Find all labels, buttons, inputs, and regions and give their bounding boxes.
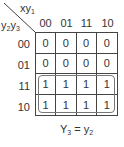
kmap-cell: 0 [77,33,97,54]
kmap-cell: 0 [36,54,56,75]
column-header: 00 [35,17,56,29]
kmap-cell: 0 [97,54,117,75]
row-header: 10 [10,101,30,113]
kmap-cell: 0 [97,33,117,54]
column-header: 01 [56,17,77,29]
row-header: 00 [10,38,30,50]
corner-left-label: y2y3 [1,20,20,34]
equation-label: Y3 = y2 [35,123,118,136]
kmap-cell: 0 [77,54,97,75]
kmap-cell: 0 [36,33,56,54]
column-header: 11 [76,17,97,29]
kmap-cell: 0 [56,33,76,54]
grouping-loop [38,75,115,113]
row-header: 11 [10,80,30,92]
row-header: 01 [10,59,30,71]
corner-top-label: xy1 [20,3,35,17]
kmap-cell: 0 [56,54,76,75]
column-header: 10 [97,17,118,29]
